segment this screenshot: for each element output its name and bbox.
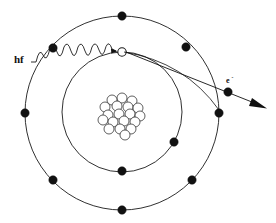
electron-dot: [188, 176, 196, 184]
electron-dot: [170, 138, 178, 146]
electron-dot: [182, 43, 190, 51]
electron-dot: [49, 176, 57, 184]
nucleus: [98, 93, 145, 140]
electron-dot: [118, 12, 126, 20]
inner-shell-electrons: [118, 138, 178, 175]
electron-dot: [118, 206, 126, 214]
electron-label: e: [226, 76, 230, 85]
ejected-electron-ray: [126, 52, 262, 106]
ejected-electron-dot: [224, 88, 232, 96]
photon-label: hf: [14, 53, 24, 65]
electron-escape-curve: [124, 52, 219, 110]
electron-label-group: e -: [226, 74, 234, 85]
electron-dot: [21, 109, 29, 117]
electron-charge-label: -: [232, 74, 234, 80]
atom-diagram: hf e -: [0, 0, 276, 223]
electron-dot: [215, 109, 223, 117]
photon-wave: [31, 44, 116, 62]
ejected-electron-arrow-head: [249, 98, 267, 109]
electron-dot: [118, 167, 126, 175]
atom-diagram-svg: hf e -: [0, 0, 276, 223]
